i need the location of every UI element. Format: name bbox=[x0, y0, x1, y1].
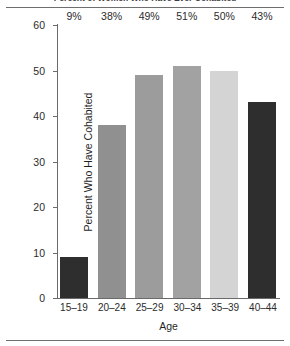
x-tick-labels: 15–1920–2425–2930–3435–3940–44 bbox=[57, 302, 280, 316]
bar[interactable]: 38% bbox=[98, 125, 126, 298]
bar-series: 9%38%49%51%50%43% bbox=[57, 25, 279, 298]
divider-top bbox=[6, 7, 284, 8]
y-tick-label: 20 bbox=[33, 201, 45, 213]
y-tick-label: 40 bbox=[33, 110, 45, 122]
y-tick-label: 10 bbox=[33, 247, 45, 259]
bar-value-label: 43% bbox=[251, 10, 272, 22]
chart-title-clipped: Percent of Women Who Have Ever Cohabited bbox=[0, 0, 290, 5]
bar-value-label: 49% bbox=[139, 10, 160, 22]
bar-value-label: 9% bbox=[66, 10, 81, 22]
bar-value-label: 51% bbox=[176, 10, 197, 22]
bar[interactable]: 9% bbox=[60, 257, 88, 298]
bar[interactable]: 51% bbox=[173, 66, 201, 298]
bar[interactable]: 50% bbox=[210, 71, 238, 299]
bar-slot: 50% bbox=[210, 25, 238, 298]
y-tick-label: 60 bbox=[33, 19, 45, 31]
x-tick-label: 15–19 bbox=[60, 302, 88, 316]
bar-value-label: 38% bbox=[101, 10, 122, 22]
x-tick-label: 30–34 bbox=[173, 302, 201, 316]
x-tick-label: 25–29 bbox=[136, 302, 164, 316]
bar-slot: 38% bbox=[98, 25, 126, 298]
bar-slot: 49% bbox=[135, 25, 163, 298]
bar-slot: 9% bbox=[60, 25, 88, 298]
x-tick-label: 35–39 bbox=[211, 302, 239, 316]
divider-bottom bbox=[6, 340, 284, 341]
bar[interactable]: 43% bbox=[248, 102, 276, 298]
bar-slot: 51% bbox=[173, 25, 201, 298]
y-tick-label: 0 bbox=[39, 292, 45, 304]
y-tick-label: 30 bbox=[33, 156, 45, 168]
bar[interactable]: 49% bbox=[135, 75, 163, 298]
x-tick-label: 20–24 bbox=[98, 302, 126, 316]
x-axis bbox=[57, 298, 280, 299]
chart-title: Percent of Women Who Have Ever Cohabited bbox=[0, 0, 290, 5]
plot-area: 9%38%49%51%50%43% bbox=[57, 25, 279, 298]
x-axis-label: Age bbox=[57, 320, 280, 332]
x-tick-label: 40–44 bbox=[249, 302, 277, 316]
chart-figure: Percent of Women Who Have Ever Cohabited… bbox=[0, 0, 290, 346]
y-tick-label: 50 bbox=[33, 65, 45, 77]
bar-value-label: 50% bbox=[214, 10, 235, 22]
bar-slot: 43% bbox=[248, 25, 276, 298]
